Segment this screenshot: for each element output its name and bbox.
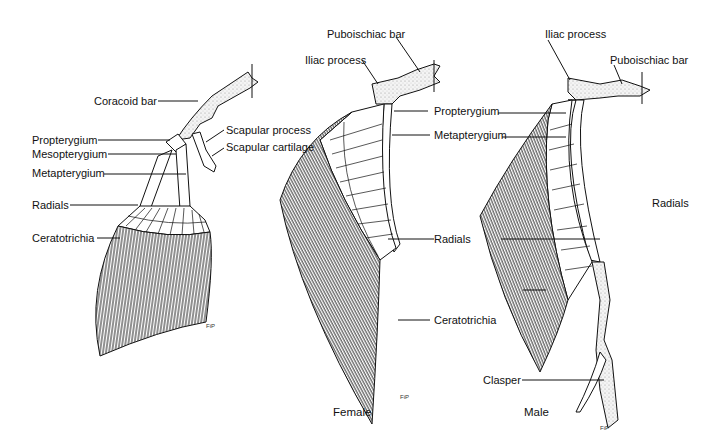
label-propterygium: Propterygium <box>434 105 499 117</box>
label-scapular-process: Scapular process <box>226 124 311 136</box>
label-puboischiac-bar: Puboischiac bar <box>610 54 688 66</box>
fin-anatomy-diagram: Coracoid bar Propterygium Mesopterygium … <box>0 0 716 445</box>
label-mesopterygium: Mesopterygium <box>32 148 107 160</box>
label-scapular-cartilage: Scapular cartilage <box>226 141 314 153</box>
label-radials: Radials <box>434 233 471 245</box>
label-metapterygium: Metapterygium <box>434 129 507 141</box>
label-coracoid-bar: Coracoid bar <box>94 95 157 107</box>
fin-illustrations <box>0 0 716 445</box>
caption-male: Male <box>524 406 549 418</box>
artist-signature: FiP <box>400 394 409 400</box>
label-radials: Radials <box>32 199 69 211</box>
label-propterygium: Propterygium <box>32 134 97 146</box>
pectoral-fin <box>96 64 258 356</box>
label-radials-outer: Radials <box>652 197 689 209</box>
label-metapterygium: Metapterygium <box>32 167 105 179</box>
caption-female: Female <box>333 406 371 418</box>
label-ceratotrichia: Ceratotrichia <box>434 314 496 326</box>
label-clasper: Clasper <box>483 374 521 386</box>
label-puboischiac-bar: Puboischiac bar <box>327 28 405 40</box>
artist-signature: FiP <box>600 425 609 431</box>
label-iliac-process: Iliac process <box>545 28 606 40</box>
label-iliac-process: Iliac process <box>305 54 366 66</box>
artist-signature: FiP <box>206 323 215 329</box>
label-ceratotrichia: Ceratotrichia <box>32 232 94 244</box>
female-pelvic-fin <box>280 60 440 424</box>
